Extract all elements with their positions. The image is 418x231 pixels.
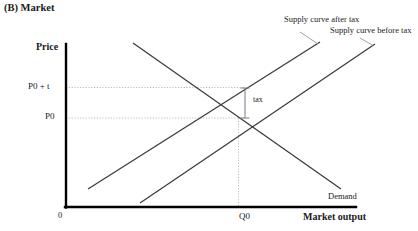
tax-wedge-label: tax bbox=[253, 96, 263, 104]
supply-before-tax-label: Supply curve before tax bbox=[330, 26, 411, 35]
tax-wedge-arrow bbox=[241, 88, 250, 118]
supply-after-tax-leader bbox=[300, 32, 318, 44]
supply-after-tax-curve bbox=[88, 42, 320, 189]
origin-label: 0 bbox=[58, 211, 62, 220]
demand-curve bbox=[133, 43, 341, 189]
supply-after-tax-label: Supply curve after tax bbox=[284, 15, 359, 24]
page-title: (B) Market bbox=[4, 3, 54, 14]
x-axis-title: Market output bbox=[303, 212, 366, 222]
x-tick-label-q0: Q0 bbox=[239, 212, 250, 221]
demand-label: Demand bbox=[328, 192, 357, 201]
supply-before-tax-curve bbox=[140, 44, 375, 203]
supply-before-tax-leader bbox=[360, 38, 374, 46]
market-tax-diagram: (B) Market Price Market output 0 P0 + t … bbox=[0, 0, 418, 231]
y-tick-label-p0: P0 bbox=[45, 112, 55, 121]
y-tick-label-p0-plus-t: P0 + t bbox=[28, 82, 50, 91]
y-axis-title: Price bbox=[36, 42, 58, 52]
